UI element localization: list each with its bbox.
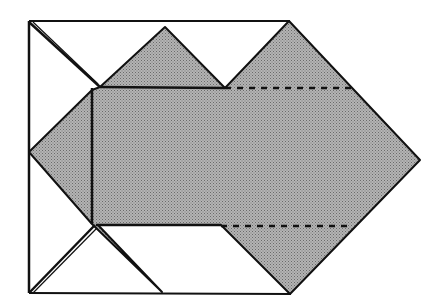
origami-fold-diagram: Origami fold diagram [0,0,439,300]
shaded-fold-region [29,21,420,294]
